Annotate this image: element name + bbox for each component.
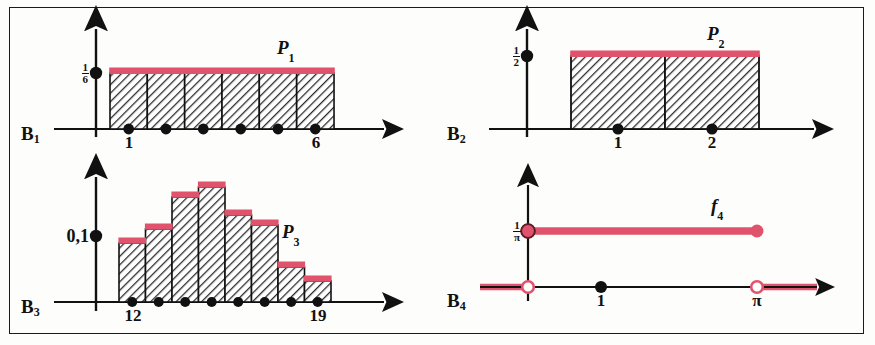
b4-open-dot-zero bbox=[522, 281, 534, 293]
b4-y-den: π bbox=[513, 231, 521, 243]
b2-bars bbox=[571, 56, 759, 129]
b4-y-tick-dot bbox=[521, 224, 535, 238]
panel-b1-plot bbox=[9, 7, 439, 171]
panel-label-b1-sub: 1 bbox=[34, 132, 40, 146]
b2-y-tick-dot bbox=[521, 50, 533, 62]
b4-curve-label: f4 bbox=[711, 195, 723, 221]
panel-label-b2-sub: 2 bbox=[460, 132, 466, 146]
panel-b2-plot bbox=[439, 7, 864, 171]
panel-b4-plot bbox=[439, 171, 864, 334]
b3-curve-label-sub: 3 bbox=[294, 235, 300, 249]
panel-b4: 1 π 1 π f4 B4 bbox=[439, 171, 864, 334]
b2-x-tick-right: 2 bbox=[702, 133, 722, 153]
b3-x-tick-left: 12 bbox=[119, 306, 147, 326]
b2-x-tick-left: 1 bbox=[608, 133, 628, 153]
panel-label-b3-sub: 3 bbox=[34, 305, 40, 319]
b4-y-tick-label: 1 π bbox=[497, 220, 521, 243]
panel-label-b4-sub: 4 bbox=[460, 299, 466, 313]
panel-b3-plot bbox=[9, 171, 439, 334]
b1-bars bbox=[110, 73, 334, 129]
b2-y-num: 1 bbox=[513, 45, 521, 56]
panel-label-b1: B1 bbox=[21, 123, 40, 145]
b1-curve-label-text: P bbox=[277, 37, 289, 58]
b4-curve-label-sub: 4 bbox=[717, 209, 723, 223]
b1-y-num: 1 bbox=[82, 62, 90, 73]
b3-y-tick-dot bbox=[90, 230, 102, 242]
panel-label-b3: B3 bbox=[21, 296, 40, 318]
b1-curve-label: P1 bbox=[277, 37, 295, 63]
b1-x-tick-right: 6 bbox=[306, 133, 326, 153]
panel-b2: 1 2 1 2 P2 B2 bbox=[439, 7, 864, 171]
b3-curve-label-text: P bbox=[282, 221, 294, 242]
b3-curve-label: P3 bbox=[282, 221, 300, 247]
b1-curve-label-sub: 1 bbox=[289, 51, 295, 65]
panel-b1: 1 6 1 6 P1 B1 bbox=[9, 7, 439, 171]
b1-y-tick-label: 1 6 bbox=[65, 62, 89, 85]
panel-label-b3-text: B bbox=[21, 296, 34, 317]
panel-label-b1-text: B bbox=[21, 123, 34, 144]
b2-y-tick-label: 1 2 bbox=[496, 45, 520, 68]
b3-x-tick-right: 19 bbox=[304, 306, 332, 326]
b1-pink-cap bbox=[109, 68, 335, 75]
b2-curve-label: P2 bbox=[707, 23, 725, 49]
b4-closed-dot-right bbox=[751, 225, 764, 238]
panel-label-b4-text: B bbox=[447, 290, 460, 311]
panel-b3: 0,1 12 19 P3 B3 bbox=[9, 171, 439, 334]
b4-x-tick-mid: 1 bbox=[591, 291, 611, 311]
panel-label-b2: B2 bbox=[447, 123, 466, 145]
b4-x-tick-right: π bbox=[747, 291, 767, 311]
b2-curve-label-text: P bbox=[707, 23, 719, 44]
panel-label-b4: B4 bbox=[447, 290, 466, 312]
b2-pink-cap bbox=[570, 51, 760, 58]
figure-page: 1 6 1 6 P1 B1 bbox=[0, 0, 875, 345]
b2-curve-label-sub: 2 bbox=[719, 37, 725, 51]
b1-x-tick-left: 1 bbox=[119, 133, 139, 153]
b4-y-num: 1 bbox=[513, 220, 521, 231]
panel-label-b2-text: B bbox=[447, 123, 460, 144]
b1-y-den: 6 bbox=[82, 73, 90, 85]
b1-y-tick-dot bbox=[90, 67, 102, 79]
b2-y-den: 2 bbox=[513, 56, 521, 68]
b3-y-tick-label: 0,1 bbox=[53, 226, 89, 247]
